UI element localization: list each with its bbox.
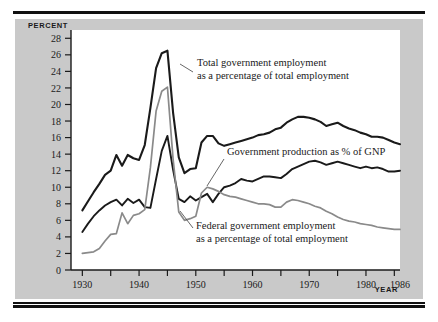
federal-government-employment-label: as a percentage of total employment [196, 233, 348, 244]
line-chart: 0246810121416182022242628 19301940195019… [0, 0, 438, 322]
y-axis-ticks: 0246810121416182022242628 [51, 33, 71, 276]
y-tick-label: 12 [51, 165, 61, 176]
y-tick-label: 18 [51, 116, 61, 127]
x-axis-ticks: 1930194019501960197019801986 [72, 270, 410, 290]
y-tick-label: 26 [51, 49, 61, 60]
y-tick-label: 28 [51, 33, 61, 44]
y-tick-label: 20 [51, 99, 61, 110]
x-tick-label: 1930 [72, 279, 92, 290]
y-tick-label: 14 [51, 149, 61, 160]
y-tick-label: 22 [51, 83, 61, 94]
x-tick-label: 1960 [243, 279, 263, 290]
x-tick-label: 1950 [186, 279, 206, 290]
y-tick-label: 10 [51, 182, 61, 193]
y-tick-label: 8 [56, 198, 61, 209]
y-tick-label: 6 [56, 215, 61, 226]
plot-wrapper: 0246810121416182022242628 19301940195019… [0, 0, 438, 322]
y-tick-label: 0 [56, 265, 61, 276]
x-tick-label: 1970 [299, 279, 319, 290]
x-tick-label: 1980 [356, 279, 376, 290]
x-tick-label: 1940 [129, 279, 149, 290]
y-tick-label: 24 [51, 66, 61, 77]
y-tick-label: 16 [51, 132, 61, 143]
total-government-employment-label: as a percentage of total employment [197, 70, 349, 81]
total-government-employment-label: Total government employment [197, 57, 326, 68]
y-axis-title: PERCENT [28, 21, 68, 30]
government-production-label: Government production as % of GNP [227, 146, 386, 157]
y-tick-label: 4 [56, 231, 61, 242]
federal-government-employment-label: Federal government employment [196, 220, 335, 231]
x-axis-title: YEAR [375, 285, 398, 294]
figure-container: 0246810121416182022242628 19301940195019… [0, 0, 438, 322]
y-tick-label: 2 [56, 248, 61, 259]
